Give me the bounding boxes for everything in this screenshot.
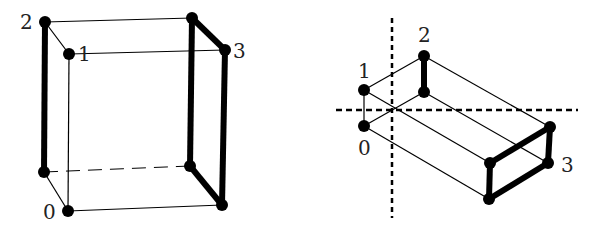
vertex — [39, 16, 51, 28]
vertex — [544, 121, 556, 133]
thick-edge — [489, 163, 548, 199]
vertex-label-0: 0 — [358, 136, 371, 160]
edge — [364, 56, 424, 90]
edge — [68, 205, 222, 211]
diagram-canvas: 2 1 3 0 1 2 0 3 — [0, 0, 601, 233]
left-cube — [44, 18, 225, 211]
edge — [364, 92, 424, 126]
edge — [424, 56, 550, 127]
vertex-label-1: 1 — [78, 42, 91, 66]
vertex — [358, 84, 370, 96]
thick-edge — [190, 166, 222, 205]
vertex-label-1: 1 — [358, 59, 371, 83]
vertex-label-3: 3 — [561, 153, 574, 177]
thick-edge — [490, 127, 550, 163]
edge — [68, 54, 69, 211]
edge — [424, 92, 548, 163]
vertex — [216, 199, 228, 211]
vertex — [184, 160, 196, 172]
vertex — [483, 193, 495, 205]
hidden-edge — [44, 166, 190, 172]
thick-edge — [190, 18, 192, 166]
vertex-label-0: 0 — [43, 200, 56, 224]
edge — [69, 50, 225, 54]
thick-edge — [44, 22, 45, 172]
edge — [364, 90, 490, 163]
vertex — [62, 205, 74, 217]
edge — [364, 126, 489, 199]
vertex-label-2: 2 — [418, 23, 431, 47]
thick-edge — [222, 50, 225, 205]
vertex-label-3: 3 — [233, 39, 246, 63]
vertex — [418, 86, 430, 98]
edge — [45, 18, 192, 22]
vertex — [542, 157, 554, 169]
left-vertices — [38, 12, 231, 217]
vertex — [219, 44, 231, 56]
thick-edge — [192, 18, 225, 50]
vertex — [38, 166, 50, 178]
right-labels: 1 2 0 3 — [358, 23, 574, 177]
vertex — [358, 120, 370, 132]
right-axes — [336, 18, 578, 218]
vertex — [186, 12, 198, 24]
vertex — [63, 48, 75, 60]
vertex-label-2: 2 — [20, 10, 33, 34]
right-vertices — [358, 50, 556, 205]
vertex — [484, 157, 496, 169]
vertex — [418, 50, 430, 62]
